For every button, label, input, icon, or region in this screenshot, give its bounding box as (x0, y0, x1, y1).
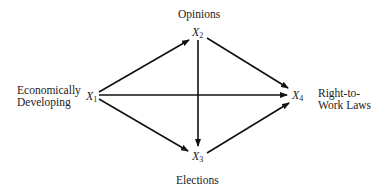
node-x4: X4 (292, 89, 303, 105)
node-sub: 1 (93, 95, 97, 104)
label-right-to-work-laws: Right-to- Work Laws (318, 87, 371, 111)
label-opinions: Opinions (178, 8, 220, 20)
node-x2: X2 (192, 26, 203, 42)
label-elections: Elections (176, 174, 219, 186)
label-line: Economically (17, 84, 81, 96)
node-x1: X1 (86, 90, 97, 106)
label-line: Work Laws (318, 99, 371, 111)
node-sub: 4 (299, 94, 303, 103)
node-x3: X3 (192, 150, 203, 166)
arrow-x1-x2 (99, 40, 189, 92)
arrow-x3-x4 (207, 103, 289, 153)
node-sub: 2 (199, 31, 203, 40)
label-line: Right-to- (318, 87, 371, 99)
label-economically-developing: Economically Developing (17, 84, 81, 108)
arrow-x1-x3 (99, 99, 188, 151)
label-line: Developing (17, 96, 81, 108)
arrow-x2-x4 (207, 38, 288, 88)
node-sub: 3 (199, 155, 203, 164)
